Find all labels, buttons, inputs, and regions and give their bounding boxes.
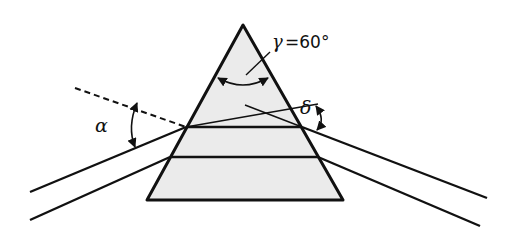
gamma-value: =60° [285, 32, 329, 52]
prism-diagram-canvas: γ =60° α δ [0, 0, 509, 235]
lower-incoming-ray [30, 157, 170, 220]
prism-diagram: γ =60° α δ [0, 0, 509, 235]
lower-outgoing-ray [318, 157, 480, 226]
gamma-symbol: γ [272, 31, 283, 52]
delta-label: δ [300, 96, 311, 118]
delta-angle-arc [316, 106, 321, 130]
alpha-label: α [95, 114, 108, 136]
normal-dashed-line [75, 88, 186, 127]
